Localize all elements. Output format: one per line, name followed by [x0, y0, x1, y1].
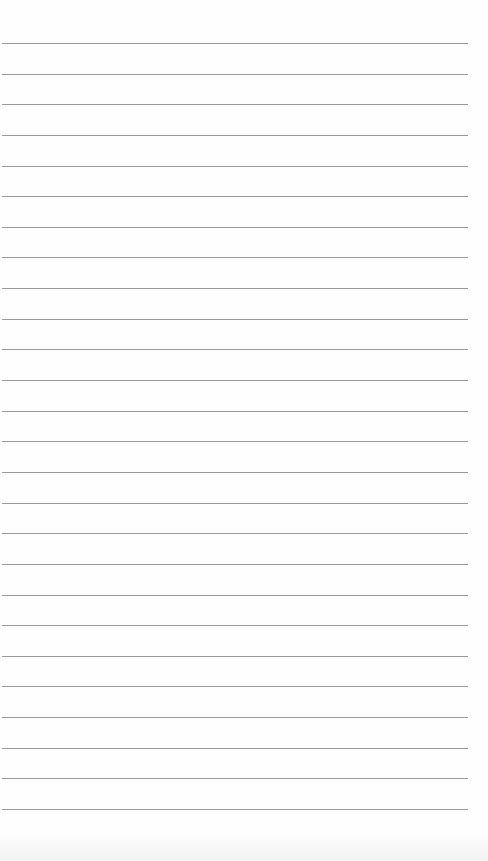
ruled-line	[2, 656, 468, 657]
ruled-line	[2, 809, 468, 810]
ruled-line	[2, 411, 468, 412]
ruled-line	[2, 288, 468, 289]
ruled-line	[2, 380, 468, 381]
ruled-line	[2, 104, 468, 105]
ruled-line	[2, 196, 468, 197]
ruled-line	[2, 43, 468, 44]
lined-paper-sheet	[0, 0, 488, 861]
ruled-line	[2, 503, 468, 504]
ruled-line	[2, 564, 468, 565]
ruled-line	[2, 319, 468, 320]
ruled-line	[2, 441, 468, 442]
ruled-line	[2, 135, 468, 136]
ruled-line	[2, 257, 468, 258]
paper-bottom-edge	[0, 831, 488, 861]
ruled-line	[2, 717, 468, 718]
ruled-line	[2, 778, 468, 779]
ruled-line	[2, 74, 468, 75]
ruled-line	[2, 349, 468, 350]
ruled-line	[2, 227, 468, 228]
ruled-line	[2, 166, 468, 167]
ruled-line	[2, 533, 468, 534]
ruled-line	[2, 625, 468, 626]
ruled-line	[2, 686, 468, 687]
ruled-line	[2, 472, 468, 473]
ruled-line	[2, 748, 468, 749]
ruled-line	[2, 595, 468, 596]
